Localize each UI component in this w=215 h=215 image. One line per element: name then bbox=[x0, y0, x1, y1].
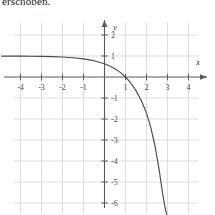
y-tick-label: -6 bbox=[111, 199, 118, 208]
axes bbox=[4, 20, 207, 208]
grid-lines bbox=[14, 23, 199, 213]
x-tick-label: -4 bbox=[17, 83, 24, 92]
y-axis-label: y bbox=[112, 22, 117, 32]
coordinate-plot: -4-3-2-11234 21-1-2-3-4-5-6 x y bbox=[0, 9, 215, 215]
x-tick-label: 1 bbox=[124, 83, 128, 92]
y-tick-label: -4 bbox=[111, 157, 118, 166]
x-axis-label: x bbox=[195, 57, 200, 67]
x-tick-label: -3 bbox=[38, 83, 45, 92]
y-tick-label: 2 bbox=[111, 31, 115, 40]
figure-root: erschoben. -4-3-2-11234 21-1-2-3-4-5-6 bbox=[0, 0, 215, 215]
y-tick-label: 1 bbox=[111, 52, 115, 61]
x-tick-label: 2 bbox=[145, 83, 149, 92]
x-tick-label: 4 bbox=[187, 83, 191, 92]
y-tick-label: -1 bbox=[111, 94, 118, 103]
x-axis-arrow bbox=[200, 74, 207, 80]
x-tick-label: -2 bbox=[59, 83, 66, 92]
y-tick-label: -5 bbox=[111, 178, 118, 187]
plot-area: -4-3-2-11234 21-1-2-3-4-5-6 x y bbox=[0, 9, 215, 215]
caption-text: erschoben. bbox=[2, 0, 50, 5]
y-axis-arrow bbox=[102, 20, 108, 27]
y-tick-label: -2 bbox=[111, 115, 118, 124]
y-tick-label: -3 bbox=[111, 136, 118, 145]
x-tick-label: -1 bbox=[80, 83, 87, 92]
x-tick-label: 3 bbox=[166, 83, 170, 92]
function-curve bbox=[2, 56, 167, 215]
